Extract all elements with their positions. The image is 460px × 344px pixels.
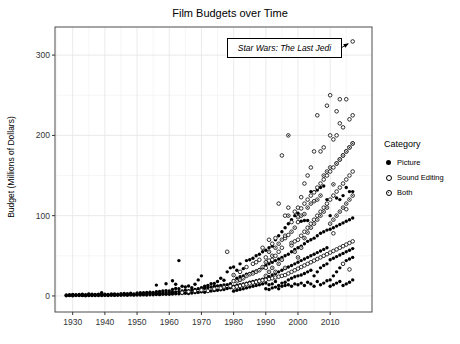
- data-point: [325, 246, 328, 249]
- x-tick-label: 1950: [128, 317, 147, 327]
- data-point: [303, 272, 306, 275]
- data-point: [306, 198, 310, 202]
- data-point: [264, 256, 268, 260]
- data-point: [309, 269, 312, 272]
- data-point: [293, 275, 296, 278]
- x-tick-label: 1990: [256, 317, 275, 327]
- data-point: [270, 242, 274, 246]
- data-point: [216, 284, 219, 287]
- data-point: [296, 212, 299, 215]
- data-point-center-dot: [307, 207, 308, 208]
- y-tick-label: 0: [45, 291, 50, 301]
- data-point: [293, 282, 296, 285]
- data-point-center-dot: [294, 227, 295, 228]
- data-point: [280, 246, 284, 250]
- data-point: [155, 283, 158, 286]
- open-circle: [386, 175, 392, 181]
- data-point-center-dot: [342, 155, 343, 156]
- data-point: [261, 250, 264, 253]
- data-point: [171, 279, 174, 282]
- data-point: [187, 284, 190, 287]
- data-point: [287, 252, 290, 255]
- data-point-center-dot: [323, 175, 324, 176]
- data-point: [219, 277, 222, 280]
- data-point: [277, 287, 280, 290]
- data-point: [322, 248, 325, 251]
- data-point: [290, 220, 294, 224]
- data-point: [116, 292, 119, 295]
- data-point: [148, 290, 151, 293]
- x-tick-label: 2000: [289, 317, 308, 327]
- data-point: [180, 291, 184, 295]
- data-point: [312, 252, 315, 255]
- data-point-center-dot: [268, 251, 269, 252]
- data-point-center-dot: [330, 167, 331, 168]
- open-circle-dot-icon: [384, 190, 393, 196]
- data-point: [293, 262, 296, 265]
- legend-item-sound-editing: Sound Editing: [384, 170, 444, 185]
- data-point: [316, 270, 319, 273]
- data-point: [328, 93, 332, 97]
- y-tick-label: 200: [36, 130, 50, 140]
- data-point: [242, 287, 245, 290]
- data-point: [316, 280, 319, 283]
- data-point-center-dot: [285, 235, 286, 236]
- data-point: [351, 40, 355, 44]
- data-point-center-dot: [285, 267, 286, 268]
- data-point: [344, 97, 348, 101]
- data-point: [348, 281, 351, 284]
- data-point: [345, 282, 348, 285]
- data-point-center-dot: [310, 203, 311, 204]
- data-point: [174, 283, 177, 286]
- data-point: [322, 264, 325, 267]
- data-point: [319, 283, 322, 286]
- data-point: [193, 289, 197, 293]
- data-point: [338, 253, 341, 256]
- data-point-center-dot: [314, 201, 315, 202]
- data-point-center-dot: [291, 231, 292, 232]
- data-point: [341, 194, 344, 197]
- data-point-center-dot: [333, 184, 334, 185]
- data-point-center-dot: [339, 211, 340, 212]
- data-point: [277, 270, 280, 273]
- data-point: [332, 194, 336, 198]
- data-point: [261, 282, 264, 285]
- data-point-center-dot: [320, 195, 321, 196]
- annotation-label: Star Wars: The Last Jedi: [238, 43, 331, 53]
- data-point: [312, 285, 315, 288]
- data-point: [351, 216, 354, 219]
- data-point: [335, 281, 338, 284]
- data-point: [119, 292, 122, 295]
- data-point-center-dot: [346, 203, 347, 204]
- data-point: [303, 257, 306, 260]
- data-point: [174, 287, 177, 290]
- data-point: [122, 292, 125, 295]
- x-tick-label: 1930: [63, 317, 82, 327]
- data-point: [335, 224, 338, 227]
- data-point: [328, 278, 331, 281]
- data-point: [248, 258, 251, 261]
- x-tick-label: 1960: [160, 317, 179, 327]
- data-point-center-dot: [320, 215, 321, 216]
- data-point: [258, 283, 261, 286]
- data-point: [319, 182, 323, 186]
- data-point: [303, 242, 306, 245]
- data-point: [299, 259, 302, 262]
- legend-items: PictureSound EditingBoth: [384, 155, 444, 200]
- data-point: [184, 285, 187, 288]
- data-point-center-dot: [243, 278, 244, 279]
- data-point: [332, 166, 336, 170]
- data-point: [232, 265, 235, 268]
- data-point: [238, 288, 241, 291]
- data-point: [325, 279, 328, 282]
- open-circle-icon: [384, 175, 393, 181]
- data-point: [177, 287, 180, 290]
- data-point: [200, 288, 204, 292]
- data-point-center-dot: [256, 271, 257, 272]
- data-point-center-dot: [223, 287, 224, 288]
- data-point: [100, 291, 103, 294]
- data-point: [287, 283, 290, 286]
- data-point: [280, 285, 283, 288]
- data-point: [335, 190, 339, 194]
- data-point: [290, 285, 293, 288]
